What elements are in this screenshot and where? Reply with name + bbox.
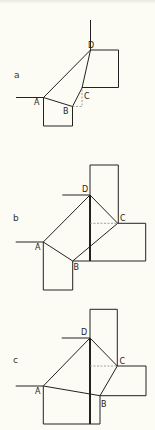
point-label-b: B [74, 263, 80, 272]
square-c [73, 223, 146, 261]
line-b-c [73, 223, 118, 261]
point-label-c: C [84, 92, 90, 101]
line-a-b [43, 386, 100, 396]
point-label-c: C [120, 357, 126, 366]
point-label-d: D [88, 41, 94, 50]
square-ab [43, 386, 100, 424]
point-label-a: A [35, 387, 41, 396]
line-b-c [100, 366, 117, 396]
panel-b: b D C A B [13, 165, 146, 290]
line-b-c [73, 88, 83, 107]
panel-c: c D C A B [13, 309, 146, 424]
point-label-d: D [82, 185, 88, 194]
figure-page: a D C A B b [0, 0, 155, 430]
panel-a: a D C A B [14, 20, 119, 126]
line-d-c [90, 195, 118, 223]
point-label-b: B [63, 107, 69, 116]
square-ab [43, 242, 72, 290]
square-d [82, 50, 119, 88]
line-d-a [44, 50, 91, 98]
line-d-a [43, 338, 90, 386]
line-d-c [90, 338, 117, 366]
panel-label: b [13, 213, 19, 223]
point-label-c: C [120, 214, 126, 223]
line-a-b [43, 242, 72, 261]
point-label-d: D [81, 328, 87, 337]
line-d-c [82, 50, 91, 88]
panel-label: a [14, 70, 20, 80]
point-label-a: A [35, 243, 41, 252]
geometric-figure: a D C A B b [0, 0, 155, 430]
tall-rectangle [90, 165, 118, 261]
line-a-b [44, 98, 73, 107]
square-c [100, 366, 146, 396]
line-d-a [43, 195, 90, 242]
point-label-b: B [101, 400, 107, 409]
point-label-a: A [34, 98, 40, 107]
panel-label: c [13, 355, 18, 365]
